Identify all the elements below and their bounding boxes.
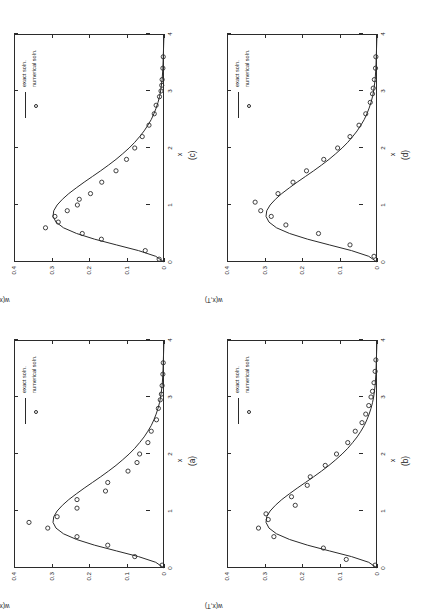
x-tick-top — [227, 396, 231, 397]
x-tick-label: 1 — [380, 501, 386, 521]
numerical-data-point — [55, 515, 59, 519]
plot-panel-c: 0123400.10.20.30.4 x w(x,T) (c) exact so… — [0, 0, 212, 306]
y-axis-title-d: w(x,T) — [211, 297, 223, 304]
y-tick — [89, 258, 90, 262]
numerical-data-point — [256, 526, 260, 530]
y-tick-label: 0.2 — [299, 266, 305, 288]
legend-line-swatch — [238, 398, 239, 424]
y-tick-right — [302, 34, 303, 38]
x-tick — [359, 567, 363, 568]
numerical-data-point — [348, 243, 352, 247]
numerical-data-point — [322, 157, 326, 161]
numerical-data-point — [291, 180, 295, 184]
numerical-data-point — [77, 197, 81, 201]
x-axis-title-a: x — [176, 459, 183, 462]
y-tick — [89, 564, 90, 568]
x-axis-title-d: x — [389, 153, 396, 156]
x-tick-top — [14, 453, 18, 454]
y-tick-label: 0.4 — [224, 266, 230, 288]
numerical-data-point — [100, 180, 104, 184]
x-tick-label: 4 — [380, 24, 386, 44]
numerical-data-point — [305, 483, 309, 487]
y-tick-label: 0.1 — [337, 266, 343, 288]
numerical-data-point — [308, 475, 312, 479]
x-tick-top — [227, 90, 231, 91]
x-tick-label: 0 — [380, 558, 386, 578]
x-tick-top — [227, 204, 231, 205]
legend-label-numerical: numerical soln. — [244, 49, 250, 87]
numerical-data-point — [124, 157, 128, 161]
numerical-data-point — [276, 192, 280, 196]
numerical-data-point — [27, 520, 31, 524]
x-tick-top — [14, 510, 18, 511]
numerical-data-point — [316, 231, 320, 235]
x-tick-label: 3 — [380, 387, 386, 407]
numerical-data-point — [114, 169, 118, 173]
y-tick-right — [52, 34, 53, 38]
legend-label-exact: exact soln. — [21, 60, 27, 87]
x-tick — [146, 33, 150, 34]
y-tick-label: 0.2 — [86, 572, 92, 594]
y-tick — [265, 564, 266, 568]
panel-label-b: (b) — [401, 456, 410, 466]
y-tick — [302, 564, 303, 568]
y-tick-right — [227, 340, 228, 344]
legend-circle-marker-icon — [34, 104, 38, 108]
y-tick — [377, 258, 378, 262]
y-tick-label: 0 — [161, 572, 167, 594]
numerical-data-point — [360, 421, 364, 425]
y-tick-right — [302, 340, 303, 344]
x-tick-label: 4 — [380, 330, 386, 350]
numerical-data-point — [371, 86, 375, 90]
x-tick-label: 3 — [380, 81, 386, 101]
numerical-data-point — [106, 543, 110, 547]
legend-circle-marker-icon — [34, 410, 38, 414]
x-tick-top — [14, 90, 18, 91]
y-tick-label: 0.3 — [262, 572, 268, 594]
y-tick — [377, 564, 378, 568]
exact-solution-curve — [266, 34, 377, 262]
y-tick — [164, 564, 165, 568]
y-tick-right — [89, 340, 90, 344]
y-tick-label: 0.1 — [124, 572, 130, 594]
x-tick-top — [14, 204, 18, 205]
numerical-data-point — [336, 146, 340, 150]
legend-label-exact: exact soln. — [21, 366, 27, 393]
x-tick — [146, 396, 150, 397]
numerical-data-point — [346, 441, 350, 445]
numerical-data-point — [289, 495, 293, 499]
x-tick-label: 1 — [380, 195, 386, 215]
y-tick-label: 0.3 — [49, 266, 55, 288]
x-tick — [359, 339, 363, 340]
numerical-data-point — [75, 535, 79, 539]
numerical-data-point — [253, 200, 257, 204]
numerical-data-point — [106, 480, 110, 484]
x-tick-label: 2 — [380, 138, 386, 158]
y-tick-right — [340, 34, 341, 38]
exact-solution-curve — [266, 340, 377, 568]
legend-circle-marker-icon — [247, 410, 251, 414]
numerical-data-point — [353, 429, 357, 433]
y-tick — [227, 564, 228, 568]
numerical-data-point — [149, 429, 153, 433]
numerical-data-point — [138, 452, 142, 456]
y-tick-right — [164, 340, 165, 344]
y-tick-label: 0.3 — [49, 572, 55, 594]
legend-line-swatch — [25, 398, 26, 424]
x-tick-label: 1 — [167, 195, 173, 215]
plot-panel-d: 0123400.10.20.30.4 x w(x,T) (d) exact so… — [213, 0, 425, 306]
y-tick-right — [52, 340, 53, 344]
x-tick-top — [14, 147, 18, 148]
x-tick-label: 3 — [167, 81, 173, 101]
y-tick-label: 0.2 — [299, 572, 305, 594]
legend-d: exact soln. numerical soln. — [233, 38, 259, 118]
numerical-data-point — [140, 135, 144, 139]
numerical-data-point — [284, 223, 288, 227]
y-tick — [340, 258, 341, 262]
y-tick-right — [265, 34, 266, 38]
numerical-data-point — [133, 146, 137, 150]
numerical-data-point — [304, 169, 308, 173]
x-tick — [359, 204, 363, 205]
x-tick-label: 3 — [167, 387, 173, 407]
legend-circle-marker-icon — [247, 104, 251, 108]
